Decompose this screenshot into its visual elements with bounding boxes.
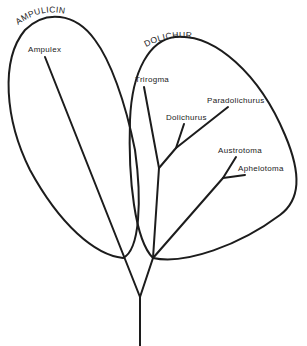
austrotoma-aphelotoma-branch: [153, 178, 223, 258]
taxon-label-dolichurus: Dolichurus: [166, 113, 207, 122]
aphelotoma-branch: [223, 175, 245, 178]
austrotoma-branch: [223, 157, 236, 178]
ampulex-branch: [45, 57, 140, 297]
taxon-label-ampulex: Ampulex: [28, 45, 61, 54]
trirogma-branch: [144, 87, 159, 168]
dolichurini-branch: [140, 168, 159, 297]
taxon-label-aphelotoma: Aphelotoma: [238, 164, 284, 173]
taxon-label-trirogma: Trirogma: [135, 75, 169, 84]
taxon-label-paradolichurus: Paradolichurus: [207, 96, 265, 105]
phylogenetic-tree: AMPULICINI DOLICHURINI Ampulex Trirogma …: [0, 0, 307, 346]
taxon-label-austrotoma: Austrotoma: [218, 146, 262, 155]
